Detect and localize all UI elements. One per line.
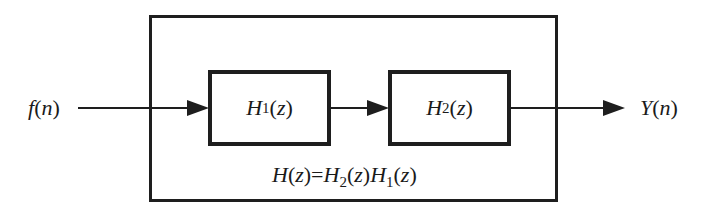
formula-equals: = [311,162,323,187]
block-h2: H2(z) [388,70,511,146]
block-h2-name: H [426,95,442,121]
input-signal-label: f(n) [28,97,60,119]
input-arg: n [41,95,52,120]
middle-arrow-line [331,107,371,109]
middle-arrowhead-icon [367,100,389,116]
block-h1: H1(z) [208,70,331,146]
formula-lhs: H [272,162,288,187]
transfer-function-formula: H(z)=H2(z)H1(z) [272,164,417,193]
formula-lhs-arg: z [295,162,304,187]
block-h2-arg: z [457,95,466,121]
output-arg: n [660,95,671,120]
formula-term1-sub: 2 [339,174,347,190]
block-h2-subscript: 2 [442,100,450,117]
block-h1-name: H [246,95,262,121]
block-h1-arg: z [277,95,286,121]
formula-term2: H [370,162,386,187]
output-arrow-line [511,107,611,109]
formula-term1: H [324,162,340,187]
output-signal-label: Y(n) [640,97,678,119]
output-fn: Y [640,95,652,120]
formula-term1-arg: z [354,162,363,187]
output-arrowhead-icon [603,100,625,116]
block-h1-subscript: 1 [262,100,270,117]
formula-term2-sub: 1 [386,174,394,190]
